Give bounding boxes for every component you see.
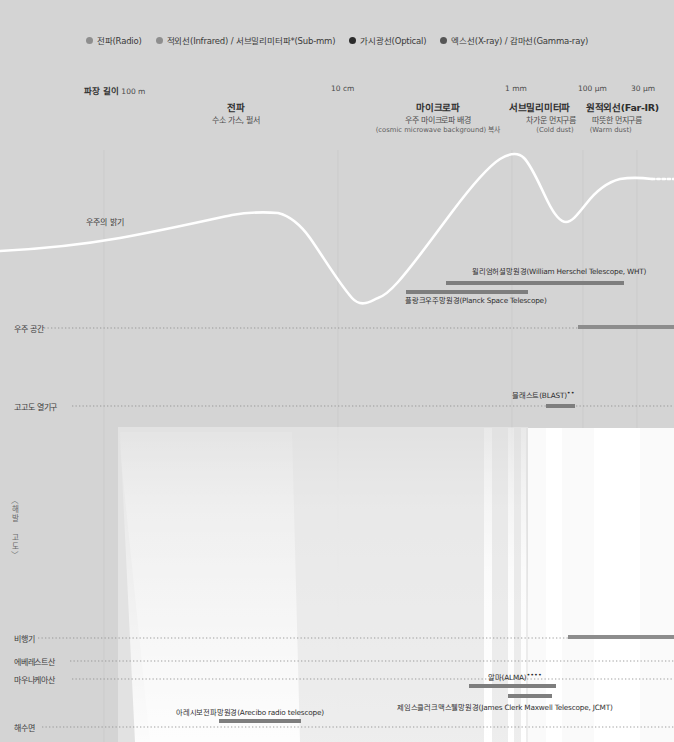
legend: 전파(Radio) 적외선(Infrared) / 서브밀리미터파*(Sub-m… (0, 30, 674, 50)
band-microwave-sub: 우주 마이크로파 배경 (376, 115, 501, 127)
wavelength-tick-1mm-wrap: 1 mm (505, 84, 527, 93)
alma-label-text: 알마(ALMA) (488, 673, 526, 682)
band-radio-sub: 수소 가스, 펄서 (212, 115, 260, 127)
row-label-airplane: 비행기 (14, 633, 34, 644)
wavelength-axis-title-text: 파장 길이 (84, 86, 119, 96)
wavelength-tick-10cm-wrap: 10 cm (331, 84, 354, 93)
band-radio-title: 전파 (212, 101, 260, 115)
xray-dot-icon (440, 37, 447, 44)
legend-item-xray-gamma: 엑스선(X-ray) / 감마선(Gamma-ray) (440, 34, 588, 46)
infographic-root: 전파(Radio) 적외선(Infrared) / 서브밀리미터파*(Sub-m… (0, 0, 674, 742)
wavelength-axis-title: 파장 길이 100 m (84, 84, 145, 96)
space-availability-bar (578, 325, 674, 329)
band-submm-farir: 서브밀리미터파 원적외선(Far-IR) 차가운 먼지구름 따뜻한 먼지구름 (… (509, 101, 659, 136)
blast-label-text: 블래스트(BLAST) (512, 391, 567, 400)
alma-footnote-marks: •••• (526, 671, 541, 679)
wht-bar (446, 281, 624, 285)
alma-label: 알마(ALMA)•••• (488, 671, 542, 682)
wavelength-tick-30um-wrap: 30 μm (631, 84, 655, 93)
alma-bar (469, 684, 556, 688)
band-microwave-eng: (cosmic microwave background) 복사 (376, 126, 501, 136)
band-farir-title: 원적외선(Far-IR) (586, 101, 659, 115)
jcmt-label-text: 제임스클러크맥스웰망원경(James Clerk Maxwell Telesco… (397, 703, 613, 712)
band-radio: 전파 수소 가스, 펄서 (212, 101, 260, 126)
band-submm-sub: 차가운 먼지구름 (526, 115, 576, 127)
legend-label-xray-gamma: 엑스선(X-ray) / 감마선(Gamma-ray) (451, 34, 588, 46)
wht-label: 윌리엄허셜망원경(William Herschel Telescope, WHT… (472, 266, 646, 276)
wht-label-text: 윌리엄허셜망원경(William Herschel Telescope, WHT… (472, 267, 646, 276)
planck-bar (406, 290, 528, 294)
row-label-sealevel: 해수면 (14, 722, 34, 733)
band-submm-title: 서브밀리미터파 (509, 101, 570, 115)
arecibo-bar (219, 719, 301, 723)
main-graph (0, 150, 674, 742)
arecibo-label-text: 아레시보전파망원경(Arecibo radio telescope) (176, 708, 324, 717)
airplane-availability-bar (568, 635, 674, 639)
infrared-dot-icon (156, 37, 163, 44)
band-microwave: 마이크로파 우주 마이크로파 배경 (cosmic microwave back… (376, 101, 501, 136)
wavelength-tick-10cm: 10 cm (331, 84, 354, 93)
band-microwave-title: 마이크로파 (376, 101, 501, 115)
legend-item-infrared-submm: 적외선(Infrared) / 서브밀리미터파*(Sub-mm) (156, 34, 336, 46)
legend-item-optical: 가시광선(Optical) (349, 34, 426, 46)
planck-label-text: 플랑크우주망원경(Planck Space Telescope) (405, 296, 547, 305)
blast-label: 블래스트(BLAST)•• (512, 389, 575, 400)
legend-item-radio: 전파(Radio) (86, 34, 142, 46)
band-farir-sub: 따뜻한 먼지구름 (592, 115, 642, 127)
legend-label-infrared-submm: 적외선(Infrared) / 서브밀리미터파*(Sub-mm) (167, 34, 336, 46)
legend-label-radio: 전파(Radio) (97, 34, 142, 46)
optical-dot-icon (349, 37, 356, 44)
curve-label: 우주의 밝기 (86, 216, 124, 227)
row-label-maunakea: 마우나케아산 (14, 674, 55, 685)
wavelength-tick-100um-wrap: 100 μm (578, 84, 607, 93)
jcmt-label: 제임스클러크맥스웰망원경(James Clerk Maxwell Telesco… (397, 702, 613, 712)
radio-dot-icon (86, 37, 93, 44)
wavelength-tick-100um: 100 μm (578, 84, 607, 93)
arecibo-label: 아레시보전파망원경(Arecibo radio telescope) (176, 707, 324, 717)
blast-bar (546, 404, 575, 408)
wavelength-tick-1mm: 1 mm (505, 84, 527, 93)
altitude-axis-label: 〈해발 고도〉 (8, 496, 19, 560)
planck-label: 플랑크우주망원경(Planck Space Telescope) (405, 295, 547, 305)
legend-label-optical: 가시광선(Optical) (360, 34, 426, 46)
wavelength-tick-100m: 100 m (121, 87, 145, 96)
row-label-everest: 에베레스트산 (14, 656, 55, 667)
wavelength-tick-30um: 30 μm (631, 84, 655, 93)
row-label-balloon: 고고도 열기구 (14, 401, 57, 412)
blast-footnote-marks: •• (567, 389, 575, 397)
jcmt-bar (508, 694, 552, 698)
row-label-space: 우주 공간 (14, 323, 44, 334)
band-submm-eng: (Cold dust) (536, 126, 573, 136)
band-farir-eng: (Warm dust) (590, 126, 632, 136)
